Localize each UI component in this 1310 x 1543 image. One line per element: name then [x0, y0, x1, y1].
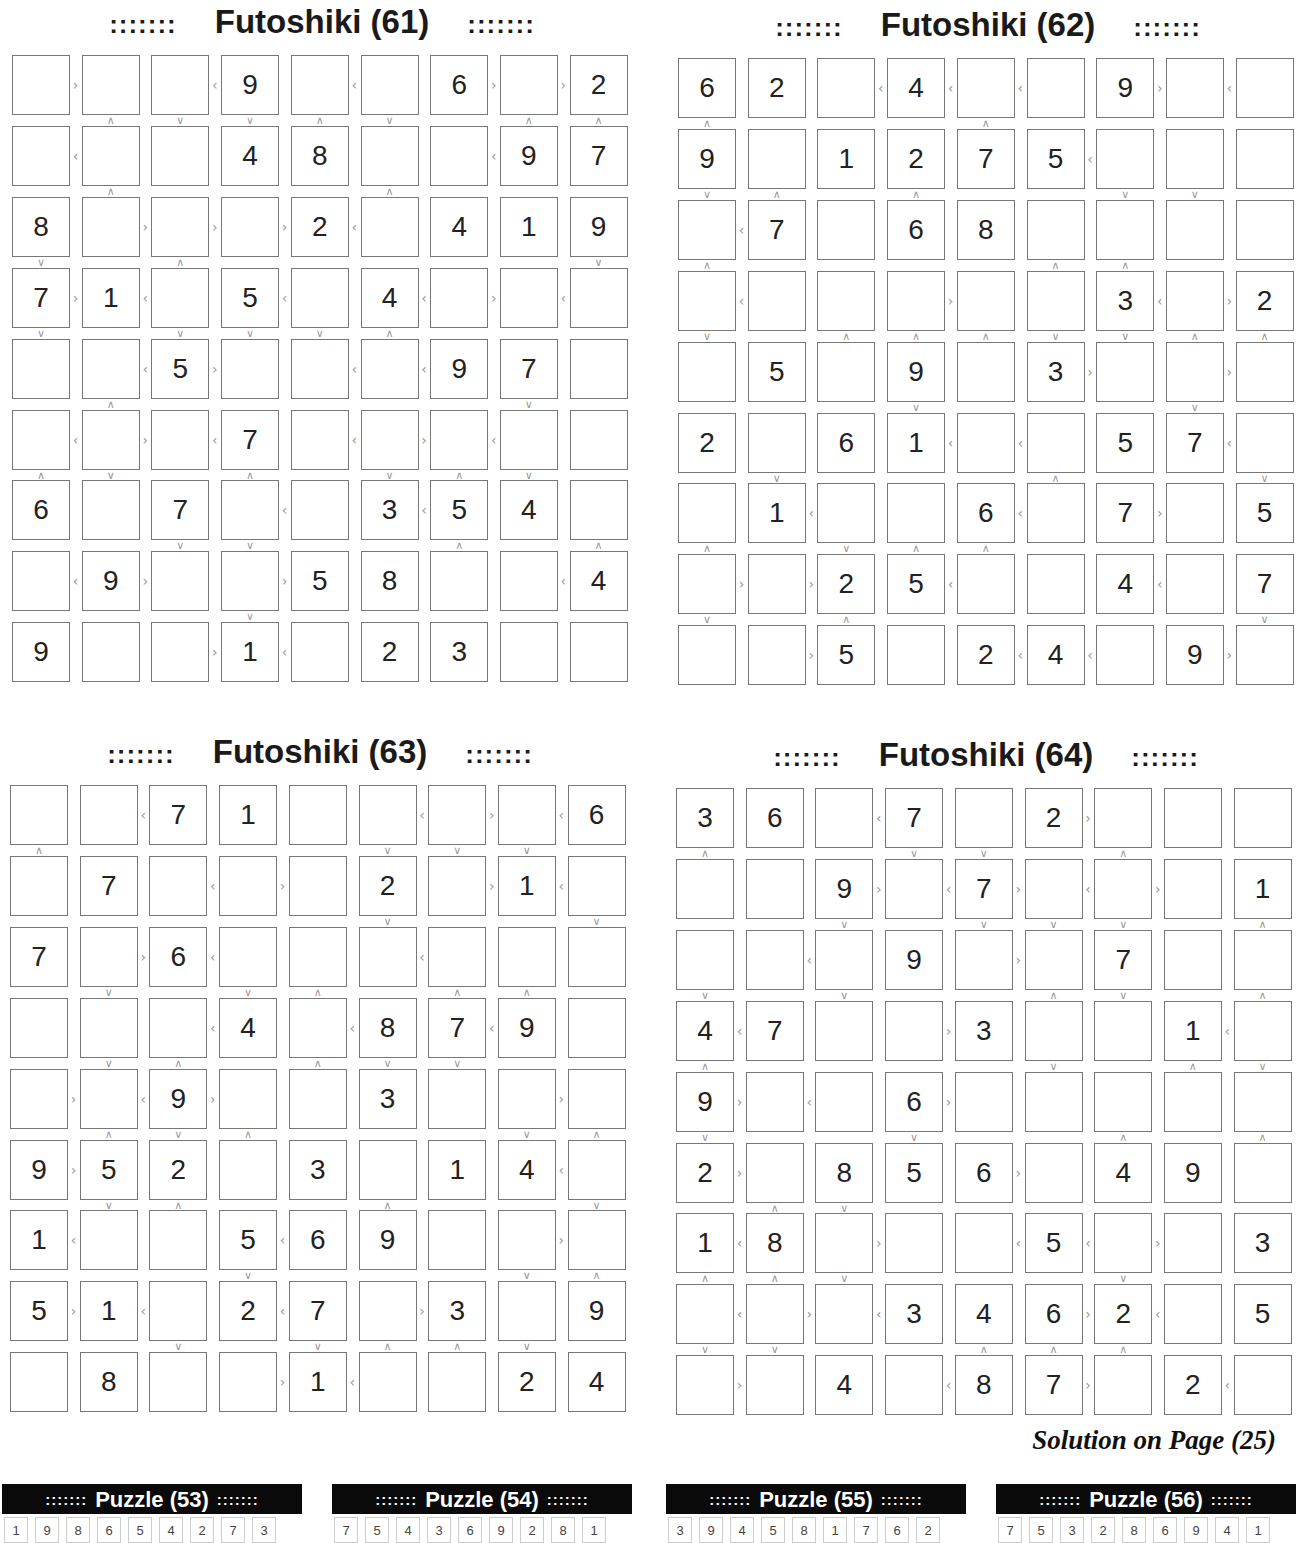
grid-cell[interactable] [498, 1210, 556, 1270]
grid-cell[interactable] [887, 271, 945, 331]
grid-cell[interactable] [570, 410, 628, 470]
grid-cell[interactable] [80, 998, 138, 1058]
grid-cell[interactable]: 8 [359, 998, 417, 1058]
grid-cell[interactable] [1027, 554, 1085, 614]
grid-cell[interactable] [12, 339, 70, 399]
grid-cell[interactable]: 7 [10, 927, 68, 987]
grid-cell[interactable]: 1 [289, 1352, 347, 1412]
grid-cell[interactable]: 1 [80, 1281, 138, 1341]
grid-cell[interactable]: 2 [1236, 271, 1294, 331]
grid-cell[interactable]: 7 [748, 200, 806, 260]
grid-cell[interactable] [1025, 1072, 1083, 1132]
grid-cell[interactable]: 7 [570, 126, 628, 186]
grid-cell[interactable] [498, 927, 556, 987]
grid-cell[interactable] [746, 1284, 804, 1344]
grid-cell[interactable] [291, 268, 349, 328]
grid-cell[interactable]: 2 [498, 1352, 556, 1412]
grid-cell[interactable]: 8 [361, 551, 419, 611]
grid-cell[interactable] [1096, 625, 1154, 685]
grid-cell[interactable] [676, 1284, 734, 1344]
grid-cell[interactable] [568, 927, 626, 987]
grid-cell[interactable]: 5 [221, 268, 279, 328]
grid-cell[interactable]: 4 [815, 1355, 873, 1415]
grid-cell[interactable]: 5 [1236, 483, 1294, 543]
grid-cell[interactable]: 4 [219, 998, 277, 1058]
grid-cell[interactable]: 3 [359, 1069, 417, 1129]
grid-cell[interactable] [817, 483, 875, 543]
grid-cell[interactable] [815, 788, 873, 848]
grid-cell[interactable]: 4 [1027, 625, 1085, 685]
grid-cell[interactable] [289, 856, 347, 916]
grid-cell[interactable]: 3 [361, 480, 419, 540]
grid-cell[interactable] [151, 551, 209, 611]
grid-cell[interactable] [817, 58, 875, 118]
grid-cell[interactable]: 2 [676, 1143, 734, 1203]
grid-cell[interactable] [498, 1069, 556, 1129]
grid-cell[interactable] [1027, 58, 1085, 118]
grid-cell[interactable] [361, 339, 419, 399]
grid-cell[interactable]: 5 [1027, 129, 1085, 189]
grid-cell[interactable] [817, 200, 875, 260]
grid-cell[interactable] [887, 483, 945, 543]
grid-cell[interactable] [1094, 1355, 1152, 1415]
grid-cell[interactable]: 1 [10, 1210, 68, 1270]
grid-cell[interactable] [676, 1355, 734, 1415]
grid-cell[interactable] [1234, 930, 1292, 990]
grid-cell[interactable] [221, 197, 279, 257]
grid-cell[interactable]: 9 [815, 859, 873, 919]
grid-cell[interactable] [80, 1210, 138, 1270]
grid-cell[interactable]: 5 [887, 554, 945, 614]
grid-cell[interactable]: 6 [746, 788, 804, 848]
grid-cell[interactable] [80, 1069, 138, 1129]
grid-cell[interactable]: 7 [746, 1001, 804, 1061]
grid-cell[interactable] [1164, 1213, 1222, 1273]
grid-cell[interactable] [885, 1213, 943, 1273]
grid-cell[interactable]: 3 [955, 1001, 1013, 1061]
grid-cell[interactable]: 5 [817, 625, 875, 685]
grid-cell[interactable] [428, 927, 486, 987]
grid-cell[interactable]: 2 [1094, 1284, 1152, 1344]
grid-cell[interactable]: 4 [1094, 1143, 1152, 1203]
grid-cell[interactable] [676, 930, 734, 990]
grid-cell[interactable] [955, 930, 1013, 990]
grid-cell[interactable] [151, 622, 209, 682]
grid-cell[interactable] [815, 1001, 873, 1061]
grid-cell[interactable] [1094, 1001, 1152, 1061]
grid-cell[interactable] [219, 856, 277, 916]
grid-cell[interactable]: 1 [500, 197, 558, 257]
grid-cell[interactable] [1027, 271, 1085, 331]
grid-cell[interactable]: 1 [1234, 859, 1292, 919]
grid-cell[interactable] [219, 1352, 277, 1412]
grid-cell[interactable]: 9 [887, 342, 945, 402]
grid-cell[interactable]: 2 [219, 1281, 277, 1341]
grid-cell[interactable] [149, 1210, 207, 1270]
grid-cell[interactable] [815, 1213, 873, 1273]
grid-cell[interactable] [359, 1140, 417, 1200]
grid-cell[interactable] [149, 856, 207, 916]
grid-cell[interactable] [1164, 859, 1222, 919]
grid-cell[interactable] [428, 1069, 486, 1129]
grid-cell[interactable]: 2 [361, 622, 419, 682]
grid-cell[interactable] [430, 551, 488, 611]
grid-cell[interactable] [955, 1213, 1013, 1273]
grid-cell[interactable] [361, 126, 419, 186]
grid-cell[interactable]: 2 [359, 856, 417, 916]
grid-cell[interactable] [568, 998, 626, 1058]
grid-cell[interactable] [957, 271, 1015, 331]
grid-cell[interactable]: 1 [1164, 1001, 1222, 1061]
grid-cell[interactable]: 7 [428, 998, 486, 1058]
grid-cell[interactable] [1164, 1072, 1222, 1132]
grid-cell[interactable]: 8 [957, 200, 1015, 260]
grid-cell[interactable] [80, 927, 138, 987]
grid-cell[interactable] [10, 1352, 68, 1412]
grid-cell[interactable]: 9 [676, 1072, 734, 1132]
grid-cell[interactable] [151, 410, 209, 470]
grid-cell[interactable] [500, 55, 558, 115]
grid-cell[interactable] [289, 785, 347, 845]
grid-cell[interactable] [568, 1210, 626, 1270]
grid-cell[interactable]: 2 [887, 129, 945, 189]
grid-cell[interactable] [82, 410, 140, 470]
grid-cell[interactable]: 5 [430, 480, 488, 540]
grid-cell[interactable] [82, 339, 140, 399]
grid-cell[interactable] [1025, 859, 1083, 919]
